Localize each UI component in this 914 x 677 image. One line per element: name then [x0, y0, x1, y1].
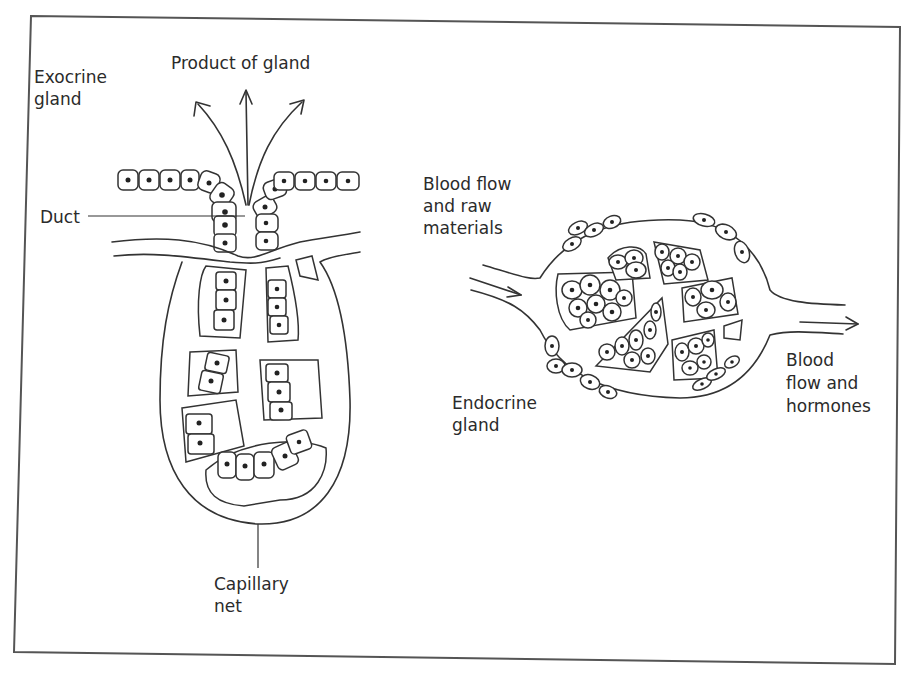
- outflow-label-line3: hormones: [786, 396, 871, 416]
- exocrine-gland: Exocrine gland Product of gland Duct Cap…: [34, 53, 360, 616]
- inflow-label-line3: materials: [423, 218, 503, 238]
- endocrine-title-line2: gland: [452, 415, 500, 435]
- product-label: Product of gland: [171, 53, 310, 73]
- gland-comparison-diagram: Exocrine gland Product of gland Duct Cap…: [0, 0, 914, 677]
- outflow-label: Blood: [786, 350, 834, 370]
- exocrine-title: Exocrine: [34, 67, 107, 87]
- duct-label: Duct: [40, 207, 80, 227]
- outflow-arrow-icon: [800, 317, 858, 330]
- surface-epithelium-right: [251, 172, 359, 250]
- inflow-label-line2: and raw: [423, 196, 492, 216]
- inflow-label: Blood flow: [423, 174, 511, 194]
- outflow-label-line2: flow and: [786, 373, 858, 393]
- capillary-label-line2: net: [214, 596, 242, 616]
- exocrine-title-line2: gland: [34, 89, 82, 109]
- inflow-arrow-icon: [470, 278, 521, 297]
- endocrine-gland: Blood flow and raw materials Endocrine g…: [423, 174, 871, 435]
- capillary-label: Capillary: [214, 574, 289, 594]
- endocrine-title: Endocrine: [452, 393, 537, 413]
